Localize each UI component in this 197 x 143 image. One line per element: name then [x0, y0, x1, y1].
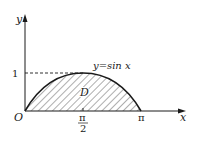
x-tick-half-pi-numerator: π [79, 112, 86, 123]
x-tick-half-pi-denominator: 2 [80, 123, 86, 134]
curve-label: y=sin x [92, 60, 131, 71]
x-axis-label: x [180, 111, 187, 124]
y-tick-one: 1 [12, 68, 18, 79]
y-axis-arrow-icon [23, 14, 28, 22]
sine-region-diagram: y 1 O π 2 π x y=sin x D [0, 0, 197, 143]
region-label: D [79, 86, 89, 99]
x-tick-pi: π [138, 112, 145, 123]
y-axis-label: y [15, 13, 23, 26]
origin-label: O [14, 111, 23, 124]
